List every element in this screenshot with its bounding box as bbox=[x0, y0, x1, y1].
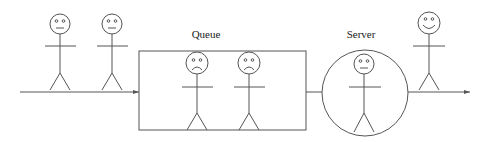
queue-label: Queue bbox=[192, 28, 221, 40]
happy-face-icon bbox=[418, 12, 440, 34]
arriving-person-1 bbox=[45, 14, 76, 90]
arriving-person-2 bbox=[97, 14, 128, 90]
neutral-face-icon bbox=[354, 54, 374, 74]
server-label: Server bbox=[347, 28, 376, 40]
sad-face-icon bbox=[186, 52, 208, 74]
queued-person-2 bbox=[234, 52, 265, 130]
server-circle bbox=[322, 50, 408, 136]
departed-person bbox=[413, 12, 445, 90]
sad-face-icon bbox=[238, 52, 260, 74]
served-person bbox=[349, 54, 381, 132]
neutral-face-icon bbox=[50, 14, 70, 34]
neutral-face-icon bbox=[102, 14, 122, 34]
queue-diagram: Queue Server bbox=[0, 0, 484, 142]
queue-box bbox=[139, 51, 306, 130]
queued-person-1 bbox=[182, 52, 213, 130]
